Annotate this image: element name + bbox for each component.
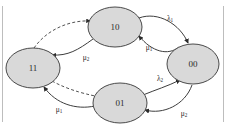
- edge-label-mu-1-bottom-sub: 1: [60, 108, 63, 114]
- diagram-canvas: 10 00 01 11 λ1 μ1 μ2 λ2 μ1: [0, 0, 226, 128]
- node-10-label: 10: [111, 22, 121, 32]
- edge-label-mu-2-right: μ2: [181, 109, 188, 118]
- edge-label-lambda-2-sub: 2: [161, 77, 164, 83]
- edge-label-lambda-1-sub: 1: [171, 17, 174, 23]
- edge-11-to-10-dashed: [34, 21, 90, 48]
- edge-label-mu-2-left-sub: 2: [87, 56, 90, 62]
- edge-10-to-11: [52, 39, 93, 55]
- state-transition-diagram: 10 00 01 11 λ1 μ1 μ2 λ2 μ1: [0, 0, 226, 128]
- edge-label-lambda-2: λ2: [157, 74, 164, 83]
- edge-00-to-01: [145, 85, 192, 111]
- edge-10-to-00: [139, 16, 188, 43]
- node-11[interactable]: 11: [6, 48, 60, 88]
- node-11-label: 11: [29, 63, 38, 73]
- edge-label-lambda-1: λ1: [167, 14, 174, 23]
- node-00-label: 00: [189, 59, 199, 69]
- node-00[interactable]: 00: [167, 44, 219, 84]
- edge-label-mu-1-bottom: μ1: [56, 105, 63, 114]
- edge-label-mu-2-left: μ2: [83, 53, 90, 62]
- edge-label-mu-1-top-sub: 1: [150, 46, 153, 52]
- edge-11-to-01-dashed: [52, 81, 100, 97]
- edge-label-mu-1-top: μ1: [146, 43, 153, 52]
- node-10[interactable]: 10: [88, 7, 142, 47]
- node-01-label: 01: [116, 98, 125, 108]
- node-01[interactable]: 01: [93, 83, 147, 123]
- edge-01-to-11: [44, 87, 95, 107]
- edge-label-mu-2-right-sub: 2: [185, 112, 188, 118]
